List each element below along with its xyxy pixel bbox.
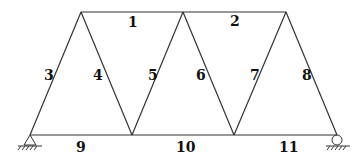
label-member-3: 3 [44, 67, 54, 83]
truss-members [30, 12, 337, 135]
member-4 [81, 12, 132, 135]
member-7 [234, 12, 286, 135]
pin-support-icon [18, 135, 42, 150]
label-member-4: 4 [93, 67, 103, 83]
label-member-9: 9 [76, 139, 86, 155]
label-member-2: 2 [230, 13, 240, 29]
label-member-10: 10 [176, 139, 196, 155]
label-member-8: 8 [302, 67, 312, 83]
label-member-1: 1 [128, 14, 138, 30]
roller-support-icon [326, 135, 350, 150]
label-member-5: 5 [148, 67, 158, 83]
member-3 [30, 12, 81, 135]
member-labels: 1 2 3 4 5 6 7 8 9 10 11 [44, 13, 312, 155]
label-member-6: 6 [196, 67, 206, 83]
label-member-7: 7 [250, 67, 260, 83]
truss-diagram: 1 2 3 4 5 6 7 8 9 10 11 [0, 0, 364, 158]
label-member-11: 11 [279, 139, 298, 155]
member-6 [183, 12, 234, 135]
